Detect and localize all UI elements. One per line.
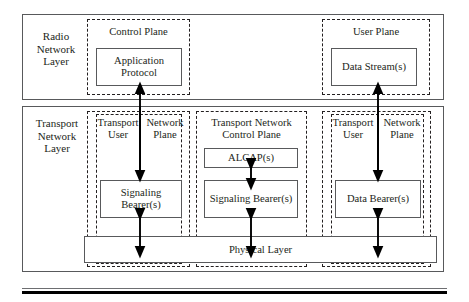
bottom-thick-rule (22, 291, 447, 294)
signaling-bearer-center-box: Signaling Bearer(s) (204, 180, 298, 218)
bottom-thin-rule (22, 288, 447, 289)
data-bearer-box: Data Bearer(s) (335, 180, 421, 218)
right-transport-user-label: Transport User (327, 117, 379, 141)
radio-network-layer-label: Radio Network Layer (26, 30, 86, 68)
transport-network-control-plane-label: Transport Network Control Plane (196, 117, 307, 141)
left-transport-user-label: Transport User (92, 117, 144, 141)
physical-layer-box: Physical Layer (84, 236, 437, 263)
right-network-plane-label: Network Plane (378, 117, 426, 141)
control-plane-label: Control Plane (87, 26, 190, 38)
alcap-box: ALCAP(s) (204, 148, 298, 168)
protocol-structure-diagram: Radio Network Layer Control Plane Applic… (0, 0, 469, 302)
signaling-bearer-left-box: Signaling Bearer(s) (100, 180, 182, 218)
transport-network-layer-label: Transport Network Layer (26, 117, 88, 155)
application-protocol-box: Application Protocol (96, 48, 182, 86)
user-plane-label: User Plane (322, 26, 430, 38)
data-streams-box: Data Stream(s) (331, 48, 417, 86)
left-network-plane-label: Network Plane (141, 117, 189, 141)
